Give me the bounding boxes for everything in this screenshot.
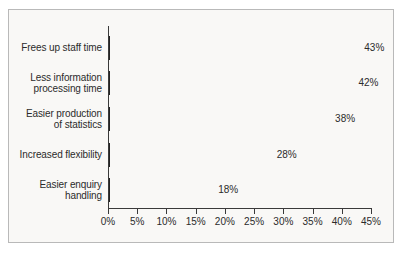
category-label-4: Easier enquiry handling (10, 179, 102, 202)
x-axis-tick-label: 45% (361, 217, 381, 227)
bar-chart-plot-area: Frees up staff time Less information pro… (9, 10, 393, 242)
category-label-3: Increased flexibility (10, 149, 102, 161)
x-axis-tick (254, 209, 255, 214)
bar-value-label-2: 38% (335, 114, 355, 124)
y-axis-line (108, 26, 109, 208)
x-axis-tick-label: 40% (332, 217, 352, 227)
x-axis-tick (166, 209, 167, 214)
x-axis-tick (137, 209, 138, 214)
bar-value-label-4: 18% (218, 185, 238, 195)
bar-row (108, 71, 353, 95)
x-axis-tick (225, 209, 226, 214)
x-axis-tick-label: 5% (130, 217, 144, 227)
x-axis-tick-label: 30% (273, 217, 293, 227)
category-label-2: Easier production of statistics (10, 108, 102, 131)
x-axis-tick (196, 209, 197, 214)
x-axis-tick (283, 209, 284, 214)
x-axis-tick-label: 20% (215, 217, 235, 227)
bar-value-label-1: 42% (358, 78, 378, 88)
bar-row (108, 143, 272, 167)
bar-value-label-3: 28% (277, 150, 297, 160)
chart-figure: Frees up staff time Less information pro… (8, 9, 394, 243)
x-axis-tick-label: 25% (244, 217, 264, 227)
x-axis-tick-label: 10% (156, 217, 176, 227)
category-label-0: Frees up staff time (10, 42, 102, 54)
category-label-1: Less information processing time (10, 72, 102, 95)
bar-row (108, 178, 213, 202)
bar-value-label-0: 43% (364, 43, 384, 53)
x-axis-tick-label: 15% (186, 217, 206, 227)
x-axis-tick (371, 209, 372, 214)
x-axis-tick-label: 35% (303, 217, 323, 227)
x-axis-line (108, 208, 372, 209)
bar-row (108, 36, 359, 60)
x-axis-tick (108, 209, 109, 214)
x-axis-tick (313, 209, 314, 214)
x-axis-tick-label: 0% (101, 217, 115, 227)
bar-row (108, 107, 330, 131)
x-axis-tick (342, 209, 343, 214)
